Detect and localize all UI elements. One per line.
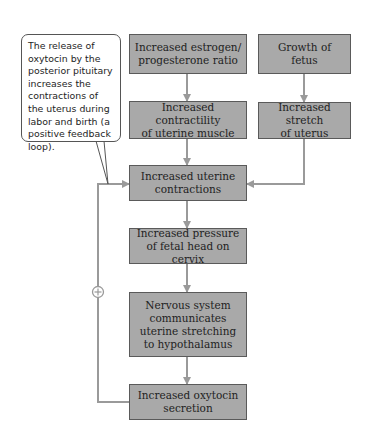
node-growth-of-fetus: Growth of fetus [258,34,351,74]
oxytocin-feedback-diagram: The release of oxytocin by the posterior… [0,0,370,439]
node-oxytocin-secretion: Increased oxytocin secretion [129,384,247,420]
node-estrogen-progesterone-ratio: Increased estrogen/ progesterone ratio [129,34,247,74]
positive-feedback-plus-icon [93,287,104,298]
node-fetal-head-pressure: Increased pressure of fetal head on cerv… [129,228,247,264]
callout-note: The release of oxytocin by the posterior… [21,34,121,142]
node-uterine-contractions: Increased uterine contractions [129,165,247,201]
callout-tail [96,141,108,184]
node-nervous-system: Nervous system communicates uterine stre… [129,292,247,357]
arrow-stretch-to-contractions [247,139,304,184]
node-contractility: Increased contractility of uterine muscl… [129,101,247,139]
node-stretch-of-uterus: Increased stretch of uterus [258,102,351,139]
